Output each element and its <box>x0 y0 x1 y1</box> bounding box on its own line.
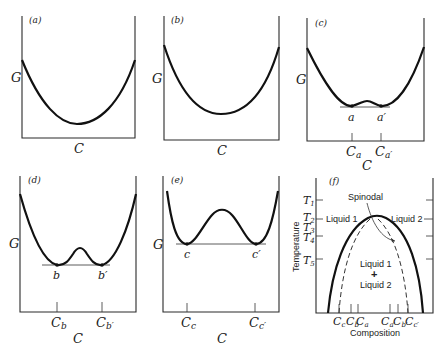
panel-d-point-b-prime-label: b′ <box>98 269 108 282</box>
comp-label-cc-prime: Cc′ <box>405 315 419 329</box>
panel-c-label: (c) <box>315 18 328 28</box>
panel-e-point-c <box>185 242 189 246</box>
panel-e-free-energy-curve <box>167 191 278 244</box>
panel-b-frame <box>164 16 279 140</box>
temp-label-t5: T5 <box>303 254 315 268</box>
panel-c: (c) G a a′ Ca Ca′ C <box>296 18 424 173</box>
panel-d-x-axis-label: C <box>73 331 83 346</box>
panel-a-frame <box>22 16 135 138</box>
free-energy-composition-figure: (a) G C (b) G C (c) G a a′ Ca Ca′ C (d) … <box>0 0 441 348</box>
spinodal-arrow-head-icon <box>391 238 395 242</box>
panel-f-label: (f) <box>329 176 340 186</box>
panel-d-point-b-prime <box>100 263 104 267</box>
panel-c-tick-label-ca: Ca <box>346 144 361 160</box>
comp-label-cc: Cc <box>333 315 345 329</box>
panel-d: (d) G b b′ Cb Cb′ C <box>9 175 136 346</box>
panel-d-point-b <box>55 263 59 267</box>
panel-e-point-c-prime-label: c′ <box>252 248 261 261</box>
panel-e-point-c-prime <box>254 242 258 246</box>
spinodal-annotation: Spinodal <box>348 192 383 202</box>
panel-b: (b) G C <box>152 15 279 158</box>
temp-label-t1: T1 <box>303 194 315 208</box>
panel-b-y-axis-label: G <box>152 71 162 86</box>
panel-a-label: (a) <box>29 15 42 25</box>
region-label-liquid-2: Liquid 2 <box>360 280 392 290</box>
composition-ticks <box>339 304 408 313</box>
panel-a-x-axis-label: C <box>74 141 84 156</box>
panel-b-x-axis-label: C <box>217 143 227 158</box>
comp-label-ca: Ca <box>356 315 369 329</box>
panel-c-point-a-label: a <box>348 111 355 124</box>
panel-f: (f) Temperature Composition T1 T2 T3 T4 … <box>291 176 433 338</box>
liquid-1-annotation: Liquid 1 <box>326 214 358 224</box>
panel-a-y-axis-label: G <box>11 70 21 85</box>
region-label-plus: + <box>371 268 377 280</box>
panel-f-x-axis-label: Composition <box>350 328 400 338</box>
panel-d-label: (d) <box>28 175 41 185</box>
panel-f-y-axis-label: Temperature <box>291 221 301 272</box>
panel-c-y-axis-label: G <box>296 72 306 87</box>
liquid-2-annotation: Liquid 2 <box>391 214 423 224</box>
panel-c-free-energy-curve <box>307 47 424 106</box>
panel-b-free-energy-curve <box>164 45 279 114</box>
panel-a-free-energy-curve <box>22 60 135 124</box>
panel-d-point-b-label: b <box>53 269 60 282</box>
panel-d-tick-label-cb-prime: Cb′ <box>96 315 114 331</box>
panel-d-y-axis-label: G <box>9 236 19 251</box>
panel-c-tick-label-ca-prime: Ca′ <box>375 144 392 160</box>
panel-e-tick-label-cc: Cc <box>181 315 196 331</box>
panel-c-point-a-prime-label: a′ <box>377 111 387 124</box>
panel-a: (a) G C <box>11 15 135 156</box>
panel-e-tick-label-cc-prime: Cc′ <box>249 315 266 331</box>
temperature-ticks <box>316 200 433 259</box>
panel-b-label: (b) <box>171 15 184 25</box>
panel-e-point-c-label: c <box>184 248 190 261</box>
panel-e-y-axis-label: G <box>153 237 163 252</box>
panel-e-x-axis-label: C <box>217 331 227 346</box>
panel-c-point-a-prime <box>379 104 383 108</box>
panel-c-point-a <box>350 104 354 108</box>
panel-c-x-axis-label: C <box>362 158 372 173</box>
panel-e: (e) G c c′ Cc Cc′ C <box>153 175 279 346</box>
panel-e-label: (e) <box>171 175 184 185</box>
panel-d-tick-label-cb: Cb <box>51 315 67 331</box>
panel-d-free-energy-curve <box>20 194 136 265</box>
